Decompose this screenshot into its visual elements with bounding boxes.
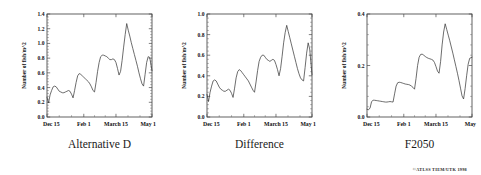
chart-panel-alternative-d: 0.00.20.40.60.81.01.21.4Dec 15Feb 1March… [0,0,160,175]
plot-frame [207,14,312,117]
x-tick-label: Dec 15 [363,121,380,127]
x-tick-label: March 15 [424,121,448,127]
x-tick-label: Dec 15 [203,121,220,127]
y-tick-label: 1.4 [38,11,45,17]
chart-title: Alternative D [68,138,131,150]
copyright-credit: ©ATLSS TIEM/UTK 1998 [413,167,467,172]
data-series-line [207,25,312,101]
y-tick-label: 0.2 [358,63,365,69]
y-tick-label: 1.0 [38,40,45,46]
y-tick-label: 0.8 [38,55,45,61]
y-tick-label: 0.4 [38,85,45,91]
y-tick-label: 0.0 [38,114,45,120]
chart-svg: 0.00.20.40.60.81.0Dec 15Feb 1March 15May… [160,0,320,175]
x-tick-label: Feb 1 [397,121,411,127]
y-tick-label: 0.6 [198,52,205,58]
x-tick-label: March 15 [264,121,288,127]
x-tick-label: March 15 [104,121,128,127]
data-series-line [47,24,152,103]
y-axis-label: Number of fish/m^2 [341,42,347,89]
y-tick-label: 0.2 [198,93,205,99]
y-tick-label: 1.2 [38,26,45,32]
figure-container: 0.00.20.40.60.81.01.21.4Dec 15Feb 1March… [0,0,481,175]
y-tick-label: 1.0 [198,11,205,17]
x-tick-label: Feb 1 [77,121,91,127]
data-series-line [367,24,472,110]
x-tick-label: Dec 15 [43,121,60,127]
chart-svg: 0.00.20.4Dec 15Feb 1March 15MayNumber of… [320,0,480,175]
chart-svg: 0.00.20.40.60.81.01.21.4Dec 15Feb 1March… [0,0,160,175]
chart-title: F2050 [405,138,435,150]
y-tick-label: 0.2 [38,99,45,105]
x-tick-label: May 1 [140,121,156,127]
y-tick-label: 0.0 [358,114,365,120]
chart-title: Difference [235,138,284,150]
plot-frame [47,14,152,117]
chart-panel-f2050: 0.00.20.4Dec 15Feb 1March 15MayNumber of… [320,0,481,175]
y-axis-label: Number of fish/m^2 [21,42,27,89]
y-tick-label: 0.4 [358,11,365,17]
y-tick-label: 0.4 [198,73,205,79]
y-axis-label: Number of fish/m^2 [181,42,187,89]
x-tick-label: May 1 [300,121,316,127]
x-tick-label: Feb 1 [237,121,251,127]
x-tick-label: May [465,121,476,127]
y-tick-label: 0.8 [198,32,205,38]
y-tick-label: 0.0 [198,114,205,120]
chart-panel-difference: 0.00.20.40.60.81.0Dec 15Feb 1March 15May… [160,0,320,175]
y-tick-label: 0.6 [38,70,45,76]
